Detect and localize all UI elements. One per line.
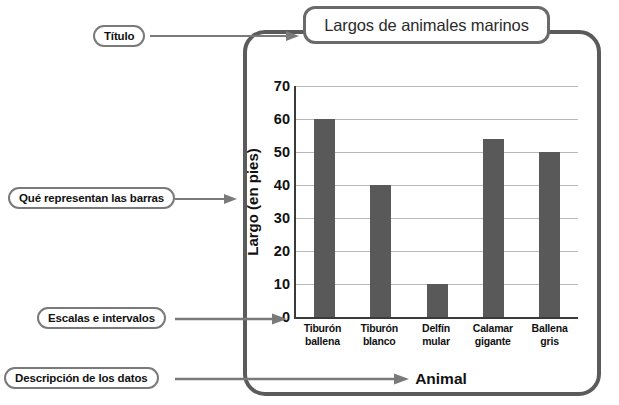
- bar-slot: [409, 86, 465, 317]
- bar-slot: [352, 86, 408, 317]
- x-axis-tick-label: Calamargigante: [464, 322, 521, 348]
- x-axis-tick-label: Ballenagris: [521, 322, 578, 348]
- leader-line-titulo: [150, 20, 325, 60]
- bar-series: [296, 86, 578, 317]
- bar-slot: [522, 86, 578, 317]
- leader-line-barras: [175, 188, 250, 212]
- callout-titulo[interactable]: Título: [93, 25, 145, 47]
- y-axis-tick-label: 70: [274, 78, 290, 93]
- callout-descripcion-de-los-datos[interactable]: Descripción de los datos: [4, 367, 159, 389]
- bar[interactable]: [483, 139, 504, 317]
- y-axis-tick-label: 20: [274, 243, 290, 258]
- y-axis-tick-label: 40: [274, 177, 290, 192]
- x-axis-tick-label: Tiburónballena: [294, 322, 351, 348]
- bar-slot: [465, 86, 521, 317]
- y-axis-tick-label: 30: [274, 210, 290, 225]
- x-axis-tick-label: Delfínmular: [408, 322, 465, 348]
- leader-line-descripcion: [175, 368, 420, 392]
- y-axis-tick-label: 10: [274, 276, 290, 291]
- callout-escalas-e-intervalos[interactable]: Escalas e intervalos: [37, 307, 166, 329]
- leader-line-escalas: [175, 308, 295, 332]
- x-axis-tick-label: Tiburónblanco: [351, 322, 408, 348]
- chart-title: Largos de animales marinos: [303, 6, 550, 44]
- x-axis-category-labels: TiburónballenaTiburónblancoDelfínmularCa…: [294, 322, 578, 348]
- x-axis-title: Animal: [412, 370, 470, 388]
- callout-que-representan-las-barras[interactable]: Qué representan las barras: [8, 187, 175, 209]
- y-axis-tick-label: 50: [274, 144, 290, 159]
- bar[interactable]: [370, 185, 391, 317]
- bar[interactable]: [427, 284, 448, 317]
- bar[interactable]: [314, 119, 335, 317]
- plot-area: 010203040506070: [294, 86, 578, 319]
- diagram-canvas: Largos de animales marinos Título Qué re…: [0, 0, 619, 405]
- y-axis-tick-label: 60: [274, 111, 290, 126]
- bar-slot: [296, 86, 352, 317]
- bar[interactable]: [539, 152, 560, 317]
